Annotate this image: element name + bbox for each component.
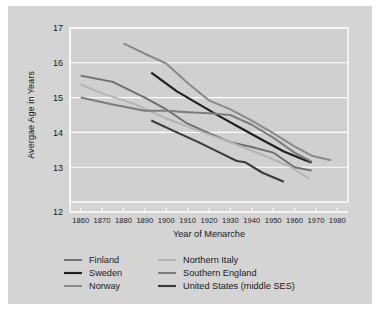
x-tick-label-1920: 1920: [201, 216, 218, 225]
x-tick-label-1980: 1980: [329, 216, 346, 225]
x-tick-label-1940: 1940: [243, 216, 260, 225]
y-tick-label-17: 17: [53, 23, 63, 33]
legend-label-southern-england: Southern England: [183, 268, 257, 278]
x-tick-label-1880: 1880: [115, 216, 132, 225]
y-tick-label-15: 15: [53, 93, 63, 103]
line-chart: 121314151617 186018701880189019001910192…: [8, 6, 372, 304]
x-axis-tick-labels: 1860187018801890190019101920193019401950…: [72, 216, 346, 225]
x-tick-label-1930: 1930: [222, 216, 239, 225]
y-tick-label-16: 16: [53, 58, 63, 68]
x-tick-label-1970: 1970: [307, 216, 324, 225]
legend-label-finland: Finland: [89, 255, 119, 265]
legend-label-norway: Norway: [89, 281, 121, 291]
x-tick-label-1950: 1950: [265, 216, 282, 225]
y-axis-tick-labels: 121314151617: [53, 23, 63, 217]
legend-label-sweden: Sweden: [89, 268, 122, 278]
legend-label-united-states-middle-ses: United States (middle SES): [183, 281, 295, 291]
y-tick-label-13: 13: [53, 163, 63, 173]
y-axis-title: Avergae Age in Years: [26, 71, 36, 159]
chart-legend: FinlandSwedenNorwayNorthern ItalySouther…: [64, 255, 295, 291]
x-tick-label-1870: 1870: [94, 216, 111, 225]
y-tick-label-12: 12: [53, 207, 63, 217]
chart-figure: 121314151617 186018701880189019001910192…: [8, 6, 372, 304]
x-axis-title: Year of Menarche: [173, 229, 245, 239]
x-tick-label-1910: 1910: [179, 216, 196, 225]
y-tick-label-14: 14: [53, 128, 63, 138]
x-tick-label-1960: 1960: [286, 216, 303, 225]
x-tick-label-1900: 1900: [158, 216, 175, 225]
x-tick-label-1860: 1860: [72, 216, 89, 225]
x-tick-label-1890: 1890: [136, 216, 153, 225]
legend-label-northern-italy: Northern Italy: [183, 255, 239, 265]
